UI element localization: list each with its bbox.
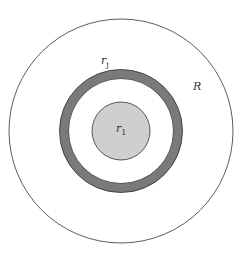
label-ring-radius: rj: [101, 54, 109, 69]
concentric-circles-diagram: rj R r1: [0, 0, 238, 254]
label-outer-radius: R: [192, 80, 201, 93]
